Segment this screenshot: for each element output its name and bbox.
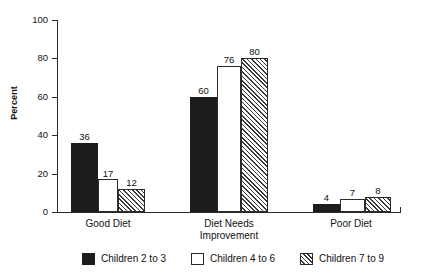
- bar-value-diet-needs-improvement-children-7-to-9: 80: [241, 47, 268, 57]
- legend-label-children-4-to-6: Children 4 to 6: [210, 254, 275, 264]
- y-axis-label-60: 60: [20, 92, 48, 102]
- legend-swatch-open-icon: [191, 253, 204, 265]
- x-axis-category-diet-needs-improvement: Diet Needs Improvement: [169, 218, 289, 242]
- bar-good-diet-children-7-to-9: [118, 189, 145, 212]
- bar-value-good-diet-children-2-to-3: 36: [71, 132, 98, 142]
- legend-swatch-solid-icon: [82, 253, 95, 265]
- bar-value-good-diet-children-7-to-9: 12: [118, 178, 145, 188]
- y-axis-tick-20: [52, 174, 57, 175]
- x-axis-line: [57, 212, 401, 213]
- y-axis-tick-40: [52, 135, 57, 136]
- legend-label-children-7-to-9: Children 7 to 9: [319, 254, 384, 264]
- bar-value-diet-needs-improvement-children-4-to-6: 76: [216, 55, 242, 65]
- legend-swatch-hatch-icon: [300, 253, 313, 265]
- x-axis-category-poor-diet: Poor Diet: [291, 218, 411, 230]
- y-axis-label-40: 40: [20, 130, 48, 140]
- x-axis-end-tick: [400, 207, 401, 212]
- bar-diet-needs-improvement-children-2-to-3: [190, 97, 217, 212]
- bar-value-diet-needs-improvement-children-2-to-3: 60: [190, 86, 217, 96]
- y-axis-title: Percent: [9, 68, 19, 138]
- bar-value-poor-diet-children-4-to-6: 7: [339, 188, 366, 198]
- bar-poor-diet-children-4-to-6: [340, 199, 365, 212]
- legend-item-children-2-to-3: Children 2 to 3: [82, 252, 166, 266]
- bar-value-poor-diet-children-7-to-9: 8: [365, 186, 391, 196]
- legend-item-children-7-to-9: Children 7 to 9: [300, 252, 384, 266]
- bar-good-diet-children-4-to-6: [98, 179, 118, 212]
- legend-label-children-2-to-3: Children 2 to 3: [101, 254, 166, 264]
- y-axis-label-20: 20: [20, 169, 48, 179]
- legend-item-children-4-to-6: Children 4 to 6: [191, 252, 275, 266]
- bar-diet-needs-improvement-children-7-to-9: [241, 58, 268, 212]
- y-axis-line: [57, 20, 58, 212]
- y-axis-label-80: 80: [20, 53, 48, 63]
- bar-poor-diet-children-2-to-3: [313, 204, 340, 212]
- y-axis-tick-80: [52, 58, 57, 59]
- bar-diet-needs-improvement-children-4-to-6: [217, 66, 241, 212]
- bar-poor-diet-children-7-to-9: [365, 197, 391, 212]
- legend: Children 2 to 3 Children 4 to 6 Children…: [0, 250, 426, 270]
- bar-chart: Percent 100 80 60 40 20 0 36 17 12 Good …: [0, 0, 426, 278]
- y-axis-tick-60: [52, 97, 57, 98]
- y-axis-tick-100: [52, 20, 57, 21]
- y-axis-label-100: 100: [20, 15, 48, 25]
- bar-value-good-diet-children-4-to-6: 17: [97, 169, 119, 179]
- x-axis-category-good-diet: Good Diet: [48, 218, 168, 230]
- bar-good-diet-children-2-to-3: [71, 143, 98, 212]
- bar-value-poor-diet-children-2-to-3: 4: [313, 193, 340, 203]
- y-axis-label-0: 0: [20, 207, 48, 217]
